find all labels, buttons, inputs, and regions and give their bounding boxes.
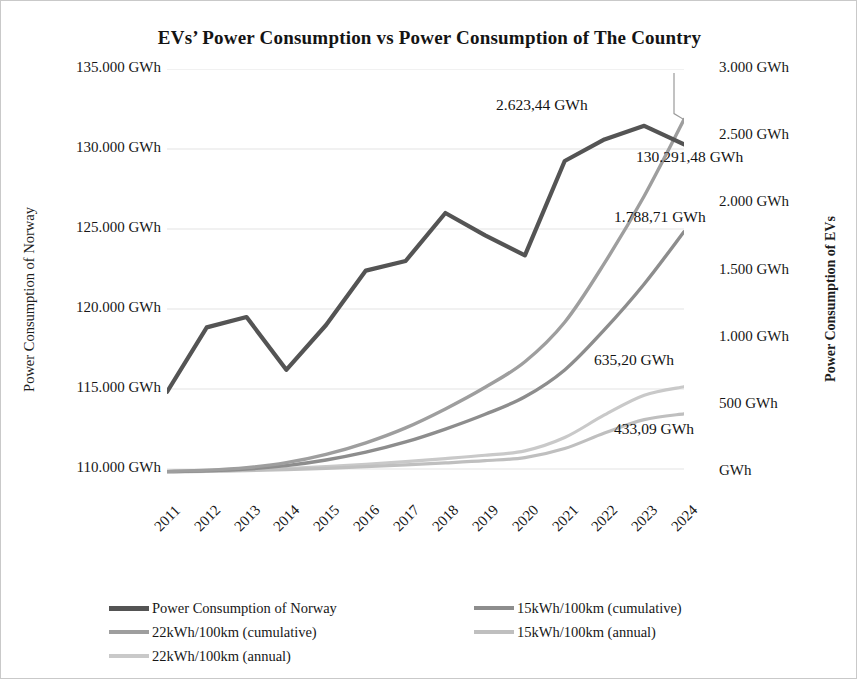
data-label: 635,20 GWh — [594, 351, 674, 369]
data-label: 1.788,71 GWh — [614, 208, 706, 226]
legend-label: Power Consumption of Norway — [152, 601, 337, 616]
annotation-leader-line — [674, 73, 684, 120]
legend-label: 22kWh/100km (cumulative) — [152, 625, 317, 640]
legend-color-swatch — [109, 654, 149, 658]
right-tick-label: GWh — [719, 462, 752, 479]
legend-item[interactable]: Power Consumption of Norway — [109, 601, 337, 616]
legend-label: 22kWh/100km (annual) — [152, 649, 291, 664]
left-tick-label: 115.000 GWh — [77, 379, 161, 396]
data-label: 130.291,48 GWh — [636, 148, 743, 166]
plot-area — [167, 69, 684, 509]
right-tick-label: 1.000 GWh — [719, 328, 789, 345]
right-tick-label: 500 GWh — [719, 395, 778, 412]
left-tick-label: 125.000 GWh — [76, 219, 161, 236]
data-label: 2.623,44 GWh — [496, 96, 588, 114]
data-label: 433,09 GWh — [614, 420, 694, 438]
right-tick-label: 2.500 GWh — [719, 126, 789, 143]
right-tick-label: 2.000 GWh — [719, 193, 789, 210]
right-axis-ticks: GWh500 GWh1.000 GWh1.500 GWh2.000 GWh2.5… — [719, 1, 839, 561]
legend-color-swatch — [109, 630, 149, 634]
right-tick-label: 1.500 GWh — [719, 261, 789, 278]
series-line — [167, 120, 684, 472]
left-axis-ticks: 110.000 GWh115.000 GWh120.000 GWh125.000… — [41, 1, 161, 561]
left-tick-label: 135.000 GWh — [76, 59, 161, 76]
left-axis-title: Power Consumption of Norway — [21, 150, 38, 450]
left-tick-label: 120.000 GWh — [76, 299, 161, 316]
legend-item[interactable]: 22kWh/100km (cumulative) — [109, 625, 317, 640]
plot-svg — [167, 69, 684, 509]
left-tick-label: 110.000 GWh — [77, 459, 161, 476]
series-line — [167, 414, 684, 472]
series-line — [167, 387, 684, 472]
chart-legend: Power Consumption of Norway15kWh/100km (… — [109, 601, 769, 673]
chart-figure: EVs’ Power Consumption vs Power Consumpt… — [0, 0, 857, 679]
legend-color-swatch — [474, 606, 514, 610]
legend-item[interactable]: 15kWh/100km (annual) — [474, 625, 656, 640]
legend-item[interactable]: 15kWh/100km (cumulative) — [474, 601, 682, 616]
legend-label: 15kWh/100km (cumulative) — [517, 601, 682, 616]
legend-color-swatch — [109, 606, 149, 611]
legend-color-swatch — [474, 630, 514, 634]
legend-item[interactable]: 22kWh/100km (annual) — [109, 649, 291, 664]
legend-label: 15kWh/100km (annual) — [517, 625, 656, 640]
left-tick-label: 130.000 GWh — [76, 139, 161, 156]
right-tick-label: 3.000 GWh — [719, 59, 789, 76]
